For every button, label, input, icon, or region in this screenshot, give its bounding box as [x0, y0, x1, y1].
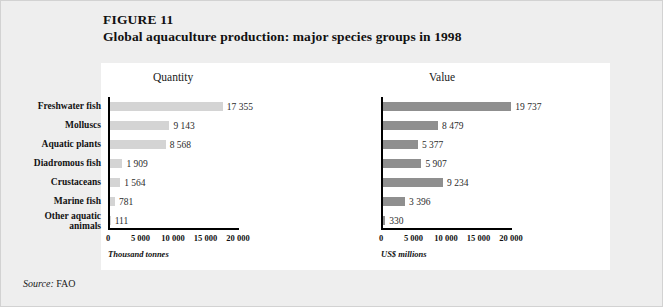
bar-row: 5 377 — [383, 135, 443, 154]
bar-row: 3 396 — [383, 192, 430, 211]
x-axis-tick-label: 5 000 — [131, 233, 150, 243]
plot-area-value: 19 7378 4795 3775 9079 2343 396330 — [381, 97, 511, 230]
bar-value-label: 19 737 — [515, 102, 541, 112]
bar — [110, 159, 122, 168]
bar-value-label: 781 — [119, 197, 133, 207]
bar-row: 1 909 — [110, 154, 148, 173]
figure-container: FIGURE 11 Global aquaculture production:… — [0, 0, 663, 307]
chart-title-value: Value — [429, 71, 455, 83]
bar-value-label: 5 907 — [425, 159, 446, 169]
bar-row: 1 564 — [110, 173, 146, 192]
x-axis-label-value: US$ millions — [381, 249, 427, 259]
bar-value-label: 330 — [389, 216, 403, 226]
bar — [383, 159, 421, 168]
category-label: Molluscs — [1, 116, 105, 135]
x-axis-tick-label: 20 000 — [499, 233, 522, 243]
category-label: Diadromous fish — [1, 154, 105, 173]
category-label: Aquatic plants — [1, 135, 105, 154]
bar — [110, 102, 223, 111]
bar — [383, 102, 511, 111]
bar — [383, 121, 438, 130]
figure-number: FIGURE 11 — [103, 11, 643, 28]
bar-value-label: 9 143 — [173, 121, 194, 131]
category-label: Crustaceans — [1, 173, 105, 192]
bar-row: 9 234 — [383, 173, 468, 192]
source-value: FAO — [56, 278, 75, 289]
x-axis-tick-label: 5 000 — [404, 233, 423, 243]
bar-value-label: 3 396 — [409, 197, 430, 207]
x-axis-tick-label: 10 000 — [434, 233, 457, 243]
bar — [110, 197, 115, 206]
bar — [110, 216, 111, 225]
bar — [110, 140, 166, 149]
bar-chart-quantity: 17 3559 1438 5681 9091 564781111 05 0001… — [108, 97, 238, 230]
bar-row: 5 907 — [383, 154, 447, 173]
source-note: Source: FAO — [23, 278, 76, 289]
plot-area-quantity: 17 3559 1438 5681 9091 564781111 — [108, 97, 238, 230]
bar-row: 9 143 — [110, 116, 195, 135]
bar-chart-value: 19 7378 4795 3775 9079 2343 396330 05 00… — [381, 97, 511, 230]
bar-row: 111 — [110, 211, 128, 230]
bar-row: 781 — [110, 192, 133, 211]
bar-value-label: 8 479 — [442, 121, 463, 131]
category-axis-labels: Freshwater fishMolluscsAquatic plantsDia… — [1, 97, 105, 230]
bar — [383, 140, 418, 149]
bar-row: 8 479 — [383, 116, 463, 135]
source-label: Source: — [23, 278, 54, 289]
bar-row: 8 568 — [110, 135, 191, 154]
x-axis-tick-label: 15 000 — [194, 233, 217, 243]
bar-value-label: 9 234 — [447, 178, 468, 188]
x-axis-tick-label: 15 000 — [467, 233, 490, 243]
bar-value-label: 17 355 — [227, 102, 253, 112]
bar-value-label: 8 568 — [170, 140, 191, 150]
chart-title-quantity: Quantity — [153, 71, 193, 83]
bar-row: 330 — [383, 211, 403, 230]
bar — [383, 197, 405, 206]
bar-value-label: 1 564 — [124, 178, 145, 188]
x-axis-label-quantity: Thousand tonnes — [108, 249, 169, 259]
x-axis-tick-label: 0 — [379, 233, 383, 243]
bar-value-label: 1 909 — [126, 159, 147, 169]
bar — [383, 216, 385, 225]
bar-row: 19 737 — [383, 97, 541, 116]
bar — [383, 178, 443, 187]
bar — [110, 121, 169, 130]
bar-row: 17 355 — [110, 97, 253, 116]
x-axis-tick-label: 0 — [106, 233, 110, 243]
figure-heading: FIGURE 11 Global aquaculture production:… — [103, 11, 643, 46]
bar — [110, 178, 120, 187]
x-axis-ticks-value: 05 00010 00015 00020 000 — [381, 233, 521, 247]
category-label: Marine fish — [1, 192, 105, 211]
x-axis-ticks-quantity: 05 00010 00015 00020 000 — [108, 233, 248, 247]
bar-value-label: 5 377 — [422, 140, 443, 150]
bar-value-label: 111 — [115, 216, 129, 226]
page-title: Global aquaculture production: major spe… — [103, 28, 643, 46]
category-label: Freshwater fish — [1, 97, 105, 116]
x-axis-tick-label: 20 000 — [226, 233, 249, 243]
category-label: Other aquaticanimals — [1, 211, 105, 230]
x-axis-tick-label: 10 000 — [161, 233, 184, 243]
